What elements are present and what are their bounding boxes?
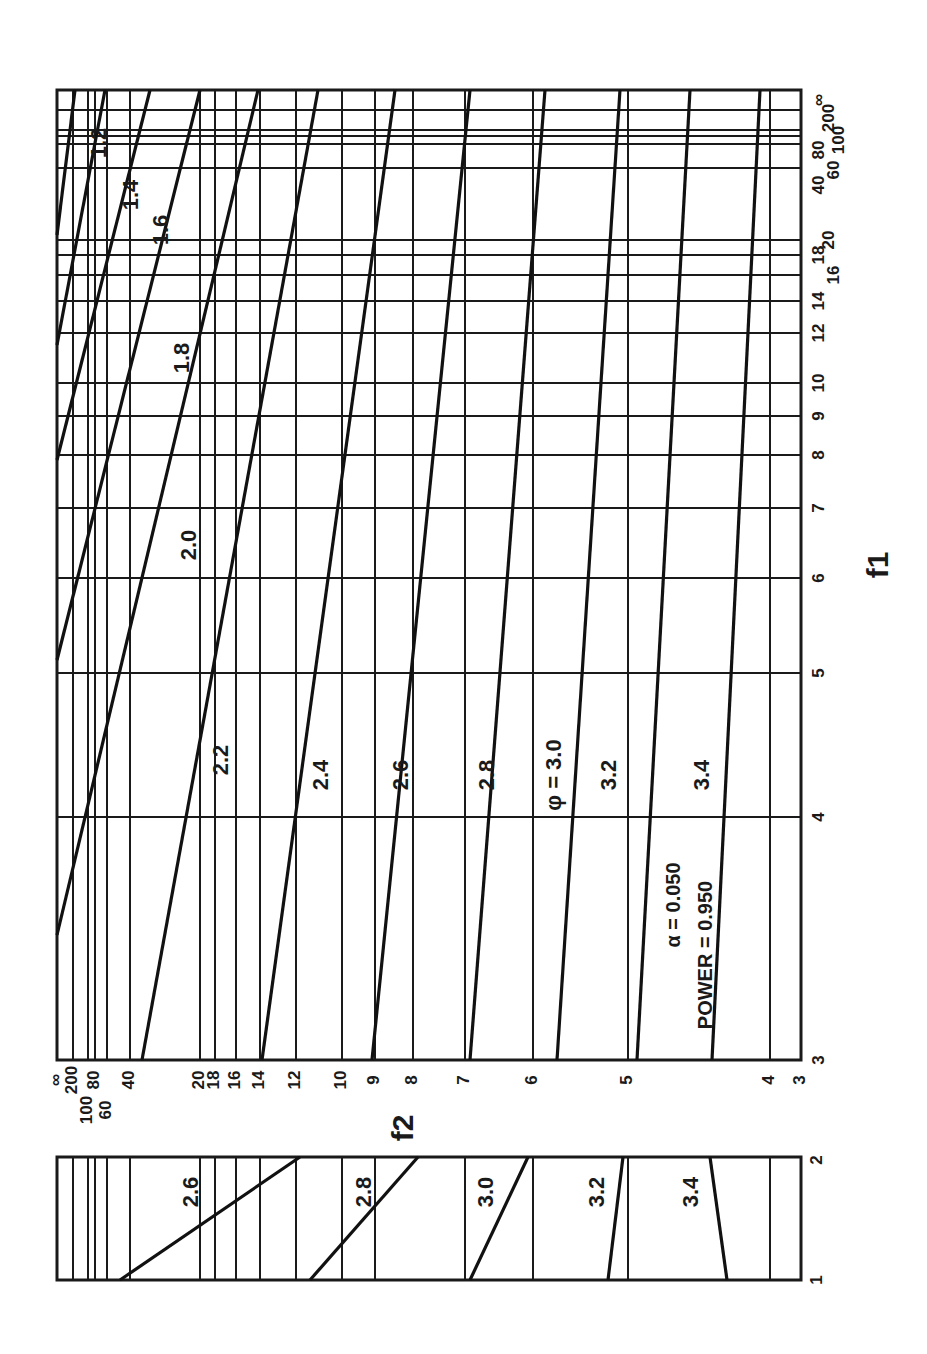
f2-tick-16: 16 (225, 1071, 244, 1090)
lower-curve-3.4 (710, 1157, 727, 1280)
lower-curve-label-3.4: 3.4 (678, 1176, 703, 1207)
chart-labels: 1.21.41.61.82.02.22.42.62.8φ = 3.03.23.4… (46, 94, 893, 1285)
curve-label-2.8: 2.8 (474, 760, 499, 791)
phi-curve-3.0 (557, 90, 620, 1060)
f1-tick-12: 12 (809, 324, 828, 343)
lower-curve-label-3.2: 3.2 (584, 1177, 609, 1208)
f1-tick-16: 16 (824, 266, 843, 285)
f1-tick-4: 4 (809, 812, 828, 822)
f2-tick-60: 60 (96, 1101, 115, 1120)
f1-axis-title: f1 (861, 552, 894, 579)
f2-tick-4: 4 (759, 1075, 778, 1085)
f2-tick-18: 18 (204, 1071, 223, 1090)
f2-tick-12: 12 (285, 1071, 304, 1090)
f2-tick-9: 9 (364, 1075, 383, 1084)
f2-tick-7: 7 (454, 1075, 473, 1084)
f1-tick-9: 9 (809, 411, 828, 420)
lower-curve-label-2.8: 2.8 (351, 1177, 376, 1208)
curve-label-1.8: 1.8 (169, 343, 194, 374)
f1-tick-8: 8 (809, 450, 828, 459)
curve-label-2.0: 2.0 (176, 530, 201, 561)
lower-tick-1: 1 (807, 1275, 826, 1284)
power-chart: 1.21.41.61.82.02.22.42.62.8φ = 3.03.23.4… (0, 0, 927, 1354)
f2-tick-6: 6 (522, 1075, 541, 1084)
lower-curve-3.2 (608, 1157, 623, 1280)
lower-panel (57, 1157, 801, 1280)
phi-curve-2.6 (372, 90, 470, 1060)
f2-tick-40: 40 (119, 1071, 138, 1090)
lower-curve-label-3.0: 3.0 (473, 1177, 498, 1208)
f2-axis-title: f2 (386, 1115, 419, 1142)
curve-label-1.2: 1.2 (86, 128, 111, 159)
f2-tick-100: 100 (77, 1096, 96, 1124)
f1-tick-14: 14 (809, 291, 828, 310)
lower-curve-3.0 (470, 1157, 528, 1280)
phi-curve-3.4 (712, 90, 760, 1060)
lower-curve-2.8 (310, 1157, 418, 1280)
f1-tick-40: 40 (809, 176, 828, 195)
f1-tick-6: 6 (809, 573, 828, 582)
f2-tick-14: 14 (249, 1070, 268, 1089)
f1-tick-5: 5 (809, 668, 828, 677)
f2-tick-200: 200 (62, 1066, 81, 1094)
curve-label-2.4: 2.4 (308, 759, 333, 790)
lower-curve-label-2.6: 2.6 (178, 1177, 203, 1208)
f1-tick-80: 80 (809, 141, 828, 160)
f2-tick-5: 5 (617, 1075, 636, 1084)
lower-tick-2: 2 (807, 1155, 826, 1164)
curve-label-2.2: 2.2 (208, 745, 233, 776)
f2-tick-10: 10 (331, 1071, 350, 1090)
f2-tick-3: 3 (790, 1075, 809, 1084)
f2-tick-8: 8 (402, 1075, 421, 1084)
f1-tick-18: 18 (809, 246, 828, 265)
curve-label-1.4: 1.4 (118, 179, 143, 210)
curve-label-3.2: 3.2 (596, 760, 621, 791)
curve-label-1.6: 1.6 (148, 215, 173, 246)
alpha-label: α = 0.050 (662, 862, 684, 947)
f1-tick-100: 100 (829, 126, 848, 154)
f2-tick-80: 80 (84, 1071, 103, 1090)
lower-curve-2.6 (120, 1157, 300, 1280)
f1-tick-7: 7 (809, 503, 828, 512)
f1-tick-3: 3 (809, 1055, 828, 1064)
curve-label-3.4: 3.4 (689, 759, 714, 790)
curve-label-2.6: 2.6 (388, 760, 413, 791)
curve-label-3.0: φ = 3.0 (541, 739, 566, 810)
power-label: POWER = 0.950 (694, 881, 716, 1029)
f1-tick-10: 10 (809, 374, 828, 393)
